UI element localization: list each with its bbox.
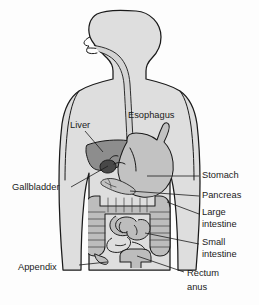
diagram-canvas: Esophagus Liver Gallbladder Appendix Sto… <box>0 0 259 305</box>
label-large-intestine-line1: Large <box>202 207 226 217</box>
label-anus-line2: anus <box>187 282 208 292</box>
gallbladder-organ <box>100 160 116 173</box>
label-small-intestine-line1: Small <box>202 237 225 247</box>
label-pancreas: Pancreas <box>202 190 242 200</box>
label-liver: Liver <box>70 120 90 130</box>
label-stomach: Stomach <box>202 170 239 180</box>
digestive-system-diagram: Esophagus Liver Gallbladder Appendix Sto… <box>0 0 259 305</box>
label-esophagus: Esophagus <box>128 110 175 120</box>
label-small-intestine-line2: intestine <box>202 249 237 259</box>
label-large-intestine-line2: intestine <box>202 219 237 229</box>
label-rectum-line1: Rectum <box>187 268 219 278</box>
label-gallbladder: Gallbladder <box>12 182 60 192</box>
label-appendix: Appendix <box>18 262 57 272</box>
